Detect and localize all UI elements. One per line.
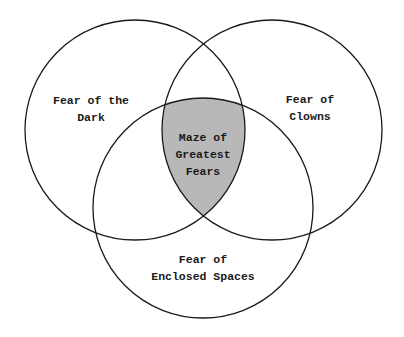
label-enclosed-line-2: Enclosed Spaces xyxy=(151,270,255,283)
label-intersection-line-2: Greatest xyxy=(175,148,230,161)
label-enclosed-line-1: Fear of xyxy=(179,253,227,266)
label-clowns-line-2: Clowns xyxy=(289,110,331,123)
label-dark-line-1: Fear of the xyxy=(53,94,129,107)
label-clowns-line-1: Fear of xyxy=(286,93,334,106)
label-intersection-line-3: Fears xyxy=(186,165,221,178)
venn-diagram: Fear of the Dark Fear of Clowns Maze of … xyxy=(0,0,404,337)
label-dark-line-2: Dark xyxy=(77,111,105,124)
label-intersection-line-1: Maze of xyxy=(179,131,227,144)
